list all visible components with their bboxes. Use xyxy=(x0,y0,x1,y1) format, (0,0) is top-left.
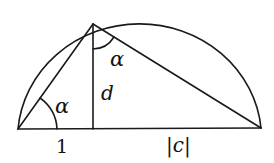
altitude-label: d xyxy=(101,83,114,103)
semicircle-diagram: α α d 1 |c| xyxy=(0,0,274,163)
right-segment-label: |c| xyxy=(166,135,191,155)
right-chord xyxy=(93,24,261,128)
diameter-line xyxy=(18,128,261,129)
diagram-canvas xyxy=(0,0,274,163)
left-segment-label: 1 xyxy=(56,137,68,156)
angle-left-label: α xyxy=(55,96,69,117)
angle-top-label: α xyxy=(110,49,124,70)
